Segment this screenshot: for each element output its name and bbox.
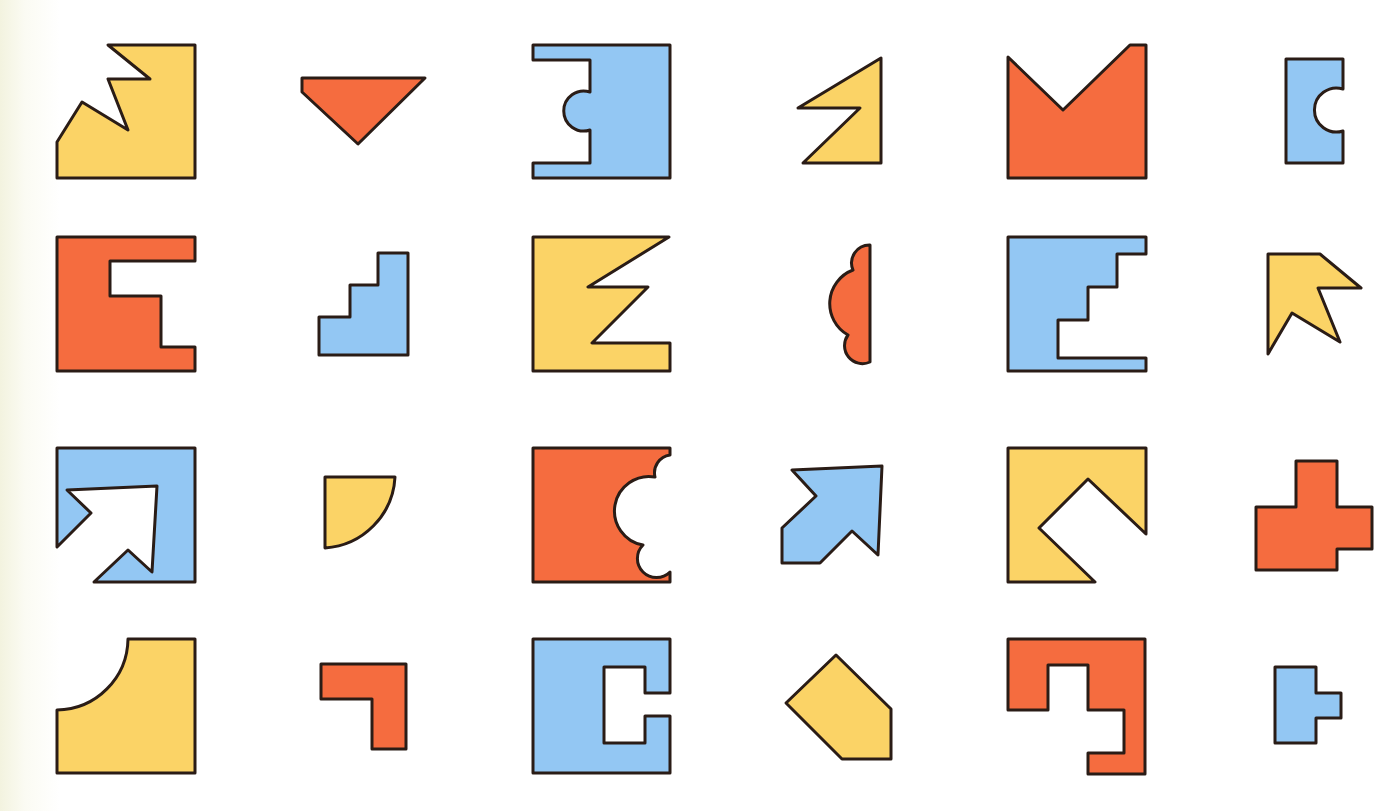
shapes-layer — [57, 45, 1372, 774]
shape-orange-l-shape — [321, 664, 406, 749]
shape-orange-hook — [1008, 639, 1145, 774]
shape-blue-stair-e — [1008, 237, 1146, 371]
shape-blue-t-shape — [1275, 667, 1341, 743]
shape-yellow-d-shape — [325, 477, 395, 548]
shape-blue-notched-bump — [533, 45, 670, 178]
shape-orange-v-notch — [1008, 45, 1146, 178]
shape-orange-scallop-half — [830, 245, 870, 364]
shape-grid: Shape puzzle grid — [0, 0, 1400, 811]
shape-yellow-zigzag-corner — [57, 45, 195, 178]
shape-yellow-zigzag-e — [533, 237, 670, 371]
shape-yellow-arrow-star — [1268, 254, 1361, 354]
shape-yellow-flag — [798, 58, 881, 163]
shape-yellow-v-cut — [1008, 448, 1146, 582]
shape-blue-stairs — [319, 253, 408, 355]
shape-yellow-pentagon — [786, 655, 891, 759]
shape-orange-e-shape — [57, 237, 195, 371]
shape-yellow-arc-cut — [57, 639, 195, 773]
shape-blue-c-slot — [533, 639, 670, 773]
shape-orange-triangle — [302, 78, 425, 144]
shape-blue-arrow — [782, 466, 882, 563]
shape-orange-cross — [1256, 461, 1372, 570]
shape-blue-c-cutout — [1286, 59, 1343, 163]
shape-blue-arrow-cutout — [57, 448, 195, 582]
shape-orange-scallop-cut — [533, 448, 670, 582]
